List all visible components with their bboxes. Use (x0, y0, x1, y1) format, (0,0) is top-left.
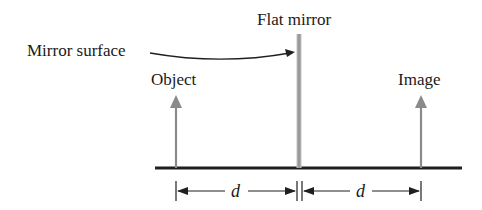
flat-mirror-label: Flat mirror (257, 11, 331, 28)
flat-mirror-diagram: Flat mirror Mirror surface Object Image … (0, 0, 482, 210)
distance-left-label: d (228, 182, 243, 200)
object-label: Object (151, 71, 196, 88)
image-arrow-icon (415, 95, 427, 168)
distance-right-label: d (353, 182, 368, 200)
flat-mirror (297, 34, 302, 168)
mirror-surface-pointer-icon (150, 49, 295, 59)
mirror-surface-label: Mirror surface (27, 42, 126, 59)
object-arrow-icon (170, 95, 182, 168)
diagram-canvas (0, 0, 482, 210)
image-label: Image (398, 71, 440, 88)
